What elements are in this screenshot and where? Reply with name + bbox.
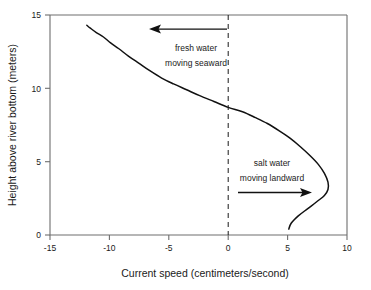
x-tick-label-5: 5 xyxy=(285,243,290,253)
x-axis-title: Current speed (centimeters/second) xyxy=(121,267,289,279)
x-tick-label-0: 0 xyxy=(226,243,231,253)
fresh-water-line2: moving seaward xyxy=(165,58,227,68)
fresh-water-line1: fresh water xyxy=(175,43,217,53)
x-tick-label-minus10: -10 xyxy=(103,243,116,253)
chart-figure: 0 5 10 15 -15 -10 -5 0 5 10 Current spee… xyxy=(0,0,371,290)
current-speed-profile-chart: 0 5 10 15 -15 -10 -5 0 5 10 Current spee… xyxy=(0,0,371,290)
x-tick-label-10: 10 xyxy=(342,243,352,253)
y-axis-title: Height above river bottom (meters) xyxy=(6,44,18,206)
x-tick-label-minus15: -15 xyxy=(44,243,57,253)
salt-water-line2: moving landward xyxy=(240,173,305,183)
y-tick-label-5: 5 xyxy=(36,157,41,167)
y-tick-label-10: 10 xyxy=(32,84,42,94)
y-tick-label-0: 0 xyxy=(36,230,41,240)
y-tick-label-15: 15 xyxy=(32,10,42,20)
x-tick-label-minus5: -5 xyxy=(165,243,173,253)
salt-water-line1: salt water xyxy=(254,158,291,168)
